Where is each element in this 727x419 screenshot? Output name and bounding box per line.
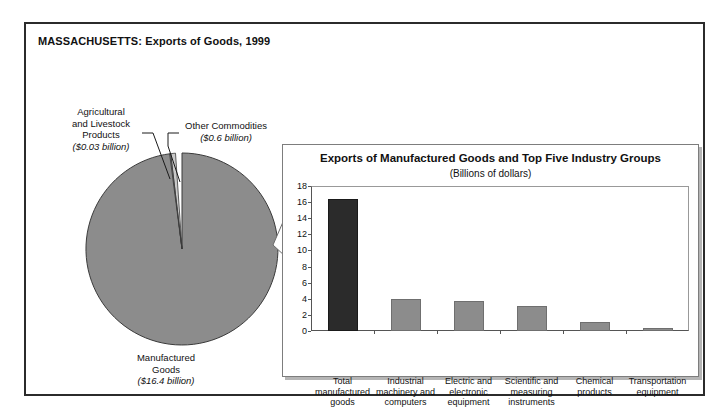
bar-3[interactable] xyxy=(454,301,484,331)
x-axis-label-4: Scientific andmeasuringinstruments xyxy=(500,376,563,408)
bar-6[interactable] xyxy=(643,328,673,331)
bar-chart-subtitle: (Billions of dollars) xyxy=(283,168,698,179)
y-axis-tick-6: 6 xyxy=(302,278,307,288)
x-axis-label-line: computers xyxy=(374,397,437,408)
x-axis-label-2: Industrialmachinery andcomputers xyxy=(374,376,437,408)
y-axis-tick-4: 4 xyxy=(302,294,307,304)
x-axis-label-line: electronic xyxy=(437,387,500,398)
x-axis-label-6: Transportationequipment xyxy=(626,376,689,397)
x-axis-label-line: machinery and xyxy=(374,387,437,398)
pie-label-agricultural-line1: Agricultural xyxy=(46,106,156,118)
figure-container: MASSACHUSETTS: Exports of Goods, 1999 Ag… xyxy=(24,22,705,396)
x-axis-label-line: Scientific and xyxy=(500,376,563,387)
x-axis-label-3: Electric andelectronicequipment xyxy=(437,376,500,408)
x-axis-tick-4 xyxy=(563,331,564,334)
pie-label-manufactured-amount: ($16.4 billion) xyxy=(96,375,236,387)
pie-label-agricultural-line2: and Livestock xyxy=(46,118,156,130)
x-axis-label-line: Total xyxy=(311,376,374,387)
bar-5[interactable] xyxy=(580,322,610,331)
x-axis-label-line: equipment xyxy=(626,387,689,398)
x-axis-label-line: goods xyxy=(311,397,374,408)
pie-label-other-commodities-amount: ($0.6 billion) xyxy=(164,132,288,144)
plot-frame xyxy=(311,186,689,331)
y-axis-tick-2: 2 xyxy=(302,310,307,320)
pie-label-other-commodities-name: Other Commodities xyxy=(164,120,288,132)
pie-label-manufactured: Manufactured Goods ($16.4 billion) xyxy=(96,352,236,387)
bar-4[interactable] xyxy=(517,306,547,331)
x-axis-label-line: products xyxy=(563,387,626,398)
pie-label-other-commodities: Other Commodities ($0.6 billion) xyxy=(164,120,288,143)
x-axis-tick-3 xyxy=(500,331,501,334)
x-axis-label-line: measuring xyxy=(500,387,563,398)
bar-2[interactable] xyxy=(391,299,421,331)
bar-chart-plot-area: 024681012141618 TotalmanufacturedgoodsIn… xyxy=(311,186,689,331)
x-axis-label-line: instruments xyxy=(500,397,563,408)
pie-chart: Agricultural and Livestock Products ($0.… xyxy=(34,94,304,394)
bar-chart-title: Exports of Manufactured Goods and Top Fi… xyxy=(283,152,698,164)
x-axis-label-line: equipment xyxy=(437,397,500,408)
y-axis-tick-12: 12 xyxy=(297,229,307,239)
bar-chart-panel: Exports of Manufactured Goods and Top Fi… xyxy=(282,144,699,377)
page-title: MASSACHUSETTS: Exports of Goods, 1999 xyxy=(38,35,270,47)
y-axis-tick-8: 8 xyxy=(302,262,307,272)
y-axis-tick-0: 0 xyxy=(302,326,307,336)
x-axis-label-line: Industrial xyxy=(374,376,437,387)
pie-label-agricultural-line3: Products xyxy=(46,129,156,141)
pie-label-manufactured-line1: Manufactured xyxy=(96,352,236,364)
pie-label-agricultural: Agricultural and Livestock Products ($0.… xyxy=(46,106,156,152)
pie-label-agricultural-amount: ($0.03 billion) xyxy=(46,141,156,153)
bar-1[interactable] xyxy=(328,199,358,331)
x-axis-label-line: manufactured xyxy=(311,387,374,398)
y-axis-tick-18: 18 xyxy=(297,181,307,191)
x-axis-label-line: Electric and xyxy=(437,376,500,387)
x-axis-label-5: Chemicalproducts xyxy=(563,376,626,397)
x-axis-label-1: Totalmanufacturedgoods xyxy=(311,376,374,408)
y-axis-tick-10: 10 xyxy=(297,245,307,255)
y-axis-tick-16: 16 xyxy=(297,197,307,207)
x-axis-label-line: Chemical xyxy=(563,376,626,387)
pie-label-manufactured-line2: Goods xyxy=(96,364,236,376)
y-axis-tick-14: 14 xyxy=(297,213,307,223)
x-axis-tick-2 xyxy=(437,331,438,334)
x-axis-label-line: Transportation xyxy=(626,376,689,387)
x-axis-tick-5 xyxy=(626,331,627,334)
x-axis-tick-1 xyxy=(374,331,375,334)
